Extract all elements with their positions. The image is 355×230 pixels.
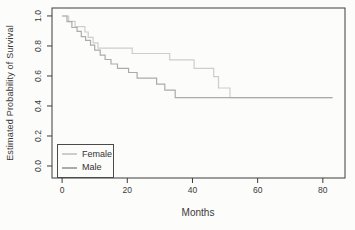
legend-entry-female: Female [62,150,113,159]
y-tick-label: 0.2 [33,130,43,142]
plot-canvas [0,0,355,230]
y-tick-label: 0.6 [33,70,43,82]
legend-label-male: Male [82,163,102,172]
y-tick-label: 1.0 [33,10,43,22]
y-axis-title: Estimated Probability of Survival [5,25,15,161]
female-curve [62,16,333,98]
male-line-swatch [62,167,77,169]
x-tick-label: 40 [188,185,197,195]
legend-label-female: Female [82,150,112,159]
survival-chart: Estimated Probability of Survival Months… [0,0,355,230]
legend: Female Male [57,144,114,178]
legend-entry-male: Male [62,163,113,172]
y-tick-label: 0.8 [33,40,43,52]
x-tick-label: 80 [318,185,327,195]
y-tick-label: 0.4 [33,100,43,112]
y-tick-label: 0.0 [33,160,43,172]
female-line-swatch [62,153,77,155]
x-axis-title: Months [182,207,215,218]
x-tick-label: 20 [123,185,132,195]
x-tick-label: 0 [60,185,65,195]
male-curve [62,16,333,98]
x-tick-label: 60 [253,185,262,195]
